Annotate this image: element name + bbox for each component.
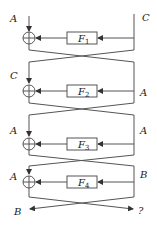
right-input-label-3: A bbox=[139, 125, 147, 136]
right-input-label-4: B bbox=[139, 169, 147, 180]
feistel-diagram: F1 F2 F3 F4 A C C A A A A B B ? bbox=[0, 0, 157, 231]
output-left-label: B bbox=[13, 206, 21, 217]
output-right-label: ? bbox=[138, 205, 144, 216]
left-input-label-2: C bbox=[10, 70, 18, 81]
left-input-label-1: A bbox=[9, 13, 17, 24]
right-input-label-1: C bbox=[142, 12, 150, 23]
right-input-label-2: A bbox=[139, 87, 147, 98]
left-input-label-3: A bbox=[9, 125, 17, 136]
left-input-label-4: A bbox=[9, 171, 17, 182]
